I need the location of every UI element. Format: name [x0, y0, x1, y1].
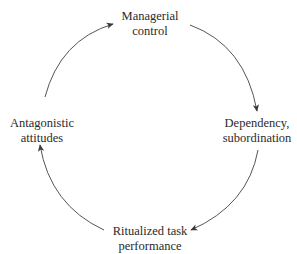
node-dependency-subordination: Dependency, subordination: [223, 116, 292, 146]
arrow-managerial-to-dependency: [190, 25, 257, 111]
arrow-ritualized-to-antagonistic: [40, 145, 104, 230]
node-ritualized-task-performance: Ritualized task performance: [113, 224, 188, 254]
arrow-dependency-to-ritualized: [191, 150, 258, 230]
node-label-line2: control: [122, 24, 179, 39]
node-label-line1: Ritualized task: [113, 224, 188, 239]
arrow-antagonistic-to-managerial: [45, 24, 113, 97]
node-managerial-control: Managerial control: [122, 9, 179, 39]
node-label-line2: subordination: [223, 131, 292, 146]
node-label-line2: attitudes: [10, 131, 74, 146]
node-label-line1: Managerial: [122, 9, 179, 24]
node-label-line2: performance: [113, 239, 188, 254]
node-label-line1: Antagonistic: [10, 116, 74, 131]
cycle-diagram: Managerial control Dependency, subordina…: [0, 0, 297, 254]
node-label-line1: Dependency,: [223, 116, 292, 131]
node-antagonistic-attitudes: Antagonistic attitudes: [10, 116, 74, 146]
